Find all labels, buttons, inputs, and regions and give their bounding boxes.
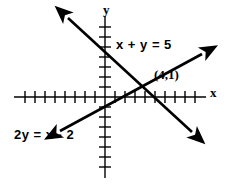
equation-label-line1: x + y = 5 (116, 38, 172, 51)
intersection-point-label: (4,1) (154, 68, 179, 81)
equation-label-line2: 2y = x - 2 (14, 128, 74, 141)
line-2y-equals-x-minus-2 (60, 54, 202, 131)
coordinate-plane-svg (0, 0, 228, 185)
y-axis-label: y (103, 3, 110, 16)
x-axis-label: x (210, 86, 217, 99)
graph-figure: y x x + y = 5 2y = x - 2 (4,1) (0, 0, 228, 185)
axis-lines (14, 16, 206, 178)
